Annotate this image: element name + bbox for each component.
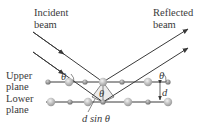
incident-label-line2: beam xyxy=(34,19,57,30)
d-label: d xyxy=(162,87,168,98)
reflected-label-line1: Reflected xyxy=(153,7,194,18)
diagram-canvas: Incident beam Reflected beam Upper plane… xyxy=(0,0,206,132)
incident-ray-1-arrow xyxy=(33,32,62,53)
upper-plane-label-line2: plane xyxy=(6,81,29,92)
theta-label-right: θ xyxy=(159,70,164,81)
reflected-label-line2: beam xyxy=(153,19,176,30)
lower-plane-label-line1: Lower xyxy=(6,93,34,104)
incident-label-line1: Incident xyxy=(34,7,68,18)
bragg-diffraction-diagram: Incident beam Reflected beam Upper plane… xyxy=(0,0,206,132)
lower-plane-label-line2: plane xyxy=(6,104,29,115)
theta-label-center: θ xyxy=(99,88,104,99)
upper-plane-label-line1: Upper xyxy=(6,70,33,81)
reflected-ray-1 xyxy=(103,29,188,82)
reflected-ray-2 xyxy=(103,48,188,102)
incident-ray-2-arrow xyxy=(33,52,62,73)
theta-label-left: θ xyxy=(61,71,66,82)
path-difference-label: d sin θ xyxy=(82,113,110,124)
